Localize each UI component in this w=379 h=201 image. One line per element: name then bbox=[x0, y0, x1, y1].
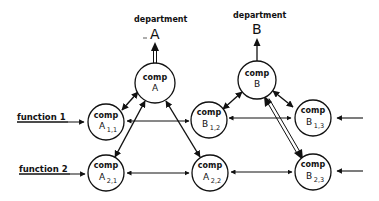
node-comp-a21: comp A 2,1 bbox=[88, 155, 124, 191]
svg-text:comp: comp bbox=[143, 73, 168, 82]
edge-compB-compB13 bbox=[273, 91, 293, 107]
svg-text:1,2: 1,2 bbox=[210, 124, 220, 132]
department-b-title: department bbox=[233, 11, 287, 20]
edge-compB-departmentB bbox=[254, 38, 261, 61]
edge-compB-compB12 bbox=[223, 92, 242, 109]
function-2-input: function 2 bbox=[19, 164, 85, 174]
svg-text:comp: comp bbox=[94, 111, 119, 120]
svg-text:B: B bbox=[306, 117, 312, 127]
node-comp-a22: comp A 2,2 bbox=[192, 155, 228, 191]
node-comp-b: comp B bbox=[238, 61, 276, 99]
organization-diagram: department A department B bbox=[0, 0, 379, 201]
svg-text:A: A bbox=[152, 83, 159, 93]
svg-text:comp: comp bbox=[94, 161, 119, 170]
node-comp-b12: comp B 1,2 bbox=[191, 102, 227, 138]
svg-text:2,1: 2,1 bbox=[107, 177, 117, 185]
edge-compA-departmentA bbox=[151, 42, 159, 63]
function-1-input: function 1 bbox=[17, 112, 84, 122]
svg-text:1,3: 1,3 bbox=[314, 122, 324, 130]
svg-text:1,1: 1,1 bbox=[107, 126, 117, 134]
svg-text:A: A bbox=[99, 172, 106, 182]
svg-text:comp: comp bbox=[301, 160, 326, 169]
svg-text:A: A bbox=[203, 172, 210, 182]
department-b-letter: B bbox=[252, 21, 262, 37]
department-a-letter: A bbox=[150, 26, 160, 42]
svg-text:comp: comp bbox=[197, 108, 222, 117]
edge-compA-compA11 bbox=[122, 92, 138, 110]
node-comp-b23: comp B 2,3 bbox=[295, 154, 331, 190]
department-b-label: department B bbox=[233, 11, 287, 37]
svg-text:B: B bbox=[306, 171, 312, 181]
department-a-title: department bbox=[134, 15, 188, 24]
svg-text:A: A bbox=[99, 121, 106, 131]
function-1-label: function 1 bbox=[17, 112, 66, 122]
svg-text:comp: comp bbox=[245, 69, 270, 78]
svg-text:2,3: 2,3 bbox=[314, 176, 324, 184]
svg-text:2,2: 2,2 bbox=[211, 177, 221, 185]
function-2-label: function 2 bbox=[19, 164, 68, 174]
svg-text:B: B bbox=[254, 79, 260, 89]
svg-text:comp: comp bbox=[198, 161, 223, 170]
svg-text:comp: comp bbox=[301, 106, 326, 115]
node-comp-b13: comp B 1,3 bbox=[295, 100, 331, 136]
edge-compB-compB23 bbox=[264, 96, 303, 160]
node-comp-a: comp A bbox=[135, 63, 175, 103]
svg-text:B: B bbox=[202, 119, 208, 129]
department-a-label: department A bbox=[134, 15, 188, 42]
node-comp-a11: comp A 1,1 bbox=[88, 104, 124, 140]
